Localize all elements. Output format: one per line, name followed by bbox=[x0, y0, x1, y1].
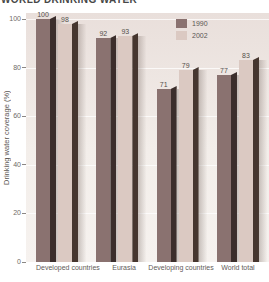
bar-front-face bbox=[239, 60, 253, 262]
y-axis-title: Drinking water coverage (%) bbox=[1, 13, 12, 262]
bar-value-label: 71 bbox=[157, 81, 171, 88]
y-tick-label-20: 20 bbox=[0, 209, 26, 217]
bar-value-label: 93 bbox=[118, 28, 132, 35]
x-axis-label-world-total: World total bbox=[217, 264, 259, 271]
bar-2002-developing-countries: 79 bbox=[179, 70, 199, 262]
bar-2002-world-total: 83 bbox=[239, 60, 259, 262]
tick-mark bbox=[22, 67, 26, 68]
legend: 19902002 bbox=[176, 19, 208, 40]
bar-1990-eurasia: 92 bbox=[96, 38, 116, 262]
y-tick-label-100: 100 bbox=[0, 15, 26, 23]
bar-group-eurasia: 9293 bbox=[96, 36, 138, 262]
bar-front-face bbox=[36, 19, 50, 262]
bar-value-label: 79 bbox=[179, 62, 193, 69]
bar-front-face bbox=[58, 24, 72, 262]
bar-side-face bbox=[72, 21, 78, 262]
tick-mark bbox=[22, 262, 26, 263]
bar-group-developed-countries: 10098 bbox=[36, 19, 78, 262]
bar-2002-developed-countries: 98 bbox=[58, 24, 78, 262]
x-axis-label-eurasia: Eurasia bbox=[103, 264, 145, 271]
legend-swatch-1990 bbox=[176, 19, 187, 28]
bar-1990-developed-countries: 100 bbox=[36, 19, 56, 262]
y-tick-label-60: 60 bbox=[0, 112, 26, 120]
bar-2002-eurasia: 93 bbox=[118, 36, 138, 262]
tick-mark bbox=[22, 116, 26, 117]
tick-mark bbox=[22, 164, 26, 165]
bar-side-face bbox=[50, 16, 56, 262]
legend-item-1990: 1990 bbox=[176, 19, 208, 28]
plot-area: 10098929371797783 19902002 bbox=[26, 13, 269, 262]
bar-front-face bbox=[96, 38, 110, 262]
legend-swatch-2002 bbox=[176, 31, 187, 40]
chart-figure: WORLD DRINKING WATER Drinking water cove… bbox=[0, 0, 269, 282]
bar-front-face bbox=[179, 70, 193, 262]
bar-side-face bbox=[171, 86, 177, 262]
bar-side-face bbox=[231, 72, 237, 262]
legend-label-1990: 1990 bbox=[192, 20, 208, 27]
bar-group-world-total: 7783 bbox=[217, 60, 259, 262]
bar-value-label: 100 bbox=[36, 11, 50, 18]
bar-side-face bbox=[193, 67, 199, 262]
legend-label-2002: 2002 bbox=[192, 32, 208, 39]
x-labels: Developed countriesEurasiaDeveloping cou… bbox=[26, 264, 269, 271]
y-tick-label-80: 80 bbox=[0, 64, 26, 72]
gridline-0 bbox=[26, 262, 269, 263]
bar-side-face bbox=[110, 35, 116, 262]
x-axis-label-developing-countries: Developing countries bbox=[148, 264, 213, 271]
bar-value-label: 98 bbox=[58, 16, 72, 23]
tick-mark bbox=[22, 213, 26, 214]
bar-side-face bbox=[132, 33, 138, 262]
bar-front-face bbox=[217, 75, 231, 262]
tick-mark bbox=[22, 19, 26, 20]
legend-item-2002: 2002 bbox=[176, 31, 208, 40]
x-axis-label-developed-countries: Developed countries bbox=[36, 264, 100, 271]
bar-value-label: 77 bbox=[217, 67, 231, 74]
bar-value-label: 83 bbox=[239, 52, 253, 59]
bar-group-developing-countries: 7179 bbox=[157, 70, 199, 262]
y-tick-label-40: 40 bbox=[0, 161, 26, 169]
bar-front-face bbox=[157, 89, 171, 262]
bar-side-face bbox=[253, 57, 259, 262]
chart-title: WORLD DRINKING WATER bbox=[1, 0, 137, 5]
bar-front-face bbox=[118, 36, 132, 262]
bar-1990-world-total: 77 bbox=[217, 75, 237, 262]
bar-1990-developing-countries: 71 bbox=[157, 89, 177, 262]
bar-value-label: 92 bbox=[96, 30, 110, 37]
bar-groups: 10098929371797783 bbox=[26, 19, 269, 262]
y-tick-label-0: 0 bbox=[0, 258, 26, 266]
